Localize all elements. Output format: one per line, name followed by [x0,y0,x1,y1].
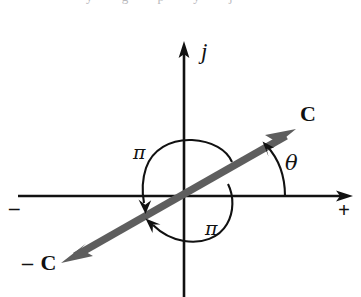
real-axis-positive-sign-label: + [338,200,350,221]
phasor-diagram-figure: y g p y j [0,0,361,297]
angle-pi-upper-label: π [133,143,146,162]
imaginary-axis-label: j [201,40,207,63]
angle-theta-group [263,142,286,197]
vector-minus-c-label: – C [22,252,57,274]
angle-theta-arc [267,146,286,197]
real-axis-negative-sign-label: – [9,198,20,219]
angle-theta-label: θ [285,153,298,174]
angle-pi-lower-label: π [205,219,218,238]
vector-c-label: C [300,103,316,125]
